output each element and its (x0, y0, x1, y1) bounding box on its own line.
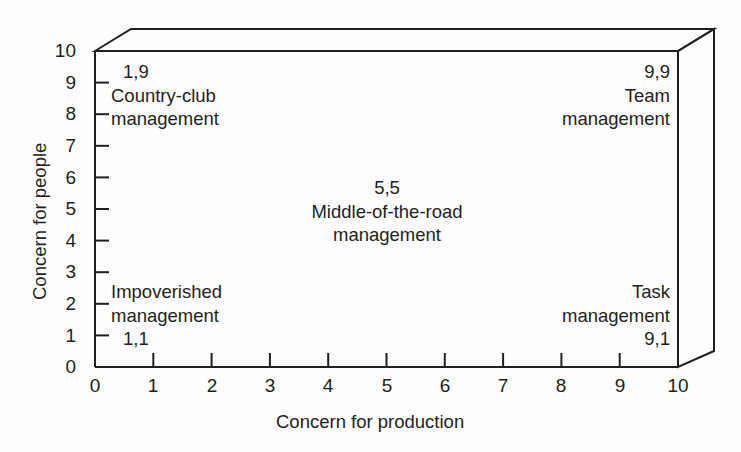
quadrant-team-line1: Team (562, 84, 670, 108)
y-axis-title: Concern for people (31, 143, 50, 300)
y-tick-label-10: 10 (42, 41, 76, 60)
x-tick-label-8: 8 (541, 376, 581, 395)
x-tick-label-6: 6 (425, 376, 465, 395)
x-tick-label-5: 5 (367, 376, 407, 395)
box-top-face (95, 29, 714, 51)
x-tick-label-4: 4 (308, 376, 348, 395)
quadrant-impoverished-coord: 1,1 (111, 327, 222, 351)
quadrant-country-club-coord: 1,9 (111, 60, 219, 84)
x-tick-label-9: 9 (600, 376, 640, 395)
diagram-canvas: 10 9 8 7 6 5 4 3 2 1 0 0 1 2 3 4 5 6 7 8… (0, 0, 741, 452)
quadrant-task-line2: management (562, 304, 670, 328)
x-axis-title: Concern for production (276, 413, 464, 432)
quadrant-impoverished-line2: management (111, 304, 222, 328)
box-right-face (678, 29, 714, 367)
quadrant-middle-line2: management (287, 223, 487, 247)
x-tick-label-7: 7 (483, 376, 523, 395)
quadrant-team-line2: management (562, 107, 670, 131)
quadrant-middle-line1: Middle-of-the-road (287, 200, 487, 224)
quadrant-team: 9,9 Team management (562, 60, 670, 131)
quadrant-middle-coord: 5,5 (287, 176, 487, 200)
quadrant-team-coord: 9,9 (562, 60, 670, 84)
quadrant-task: Task management 9,1 (562, 280, 670, 351)
y-tick-label-0: 0 (42, 357, 76, 376)
y-tick-label-8: 8 (42, 104, 76, 123)
quadrant-impoverished: Impoverished management 1,1 (111, 280, 222, 351)
quadrant-country-club-line2: management (111, 107, 219, 131)
quadrant-task-coord: 9,1 (562, 327, 670, 351)
x-tick-label-1: 1 (133, 376, 173, 395)
quadrant-task-line1: Task (562, 280, 670, 304)
quadrant-impoverished-line1: Impoverished (111, 280, 222, 304)
x-tick-label-10: 10 (658, 376, 698, 395)
x-tick-label-2: 2 (192, 376, 232, 395)
quadrant-country-club-line1: Country-club (111, 84, 219, 108)
y-tick-label-1: 1 (42, 326, 76, 345)
quadrant-country-club: 1,9 Country-club management (111, 60, 219, 131)
quadrant-middle-of-the-road: 5,5 Middle-of-the-road management (287, 176, 487, 247)
y-tick-label-9: 9 (42, 73, 76, 92)
x-tick-label-0: 0 (75, 376, 115, 395)
x-tick-label-3: 3 (250, 376, 290, 395)
